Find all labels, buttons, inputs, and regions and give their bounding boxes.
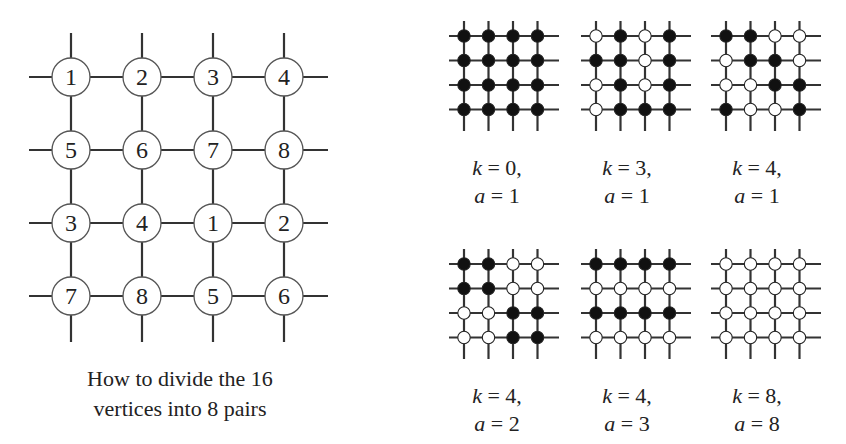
vertex-node: 7	[194, 131, 232, 169]
black-vertex	[614, 258, 626, 270]
a-value: a = 3	[567, 410, 687, 438]
small-grid-label: k = 4,a = 1	[697, 154, 817, 210]
caption-line-1: How to divide the 16	[20, 364, 340, 394]
black-vertex	[507, 79, 519, 91]
vertex-label: 3	[207, 64, 219, 90]
black-vertex	[614, 79, 626, 91]
white-vertex	[590, 30, 602, 42]
black-vertex	[663, 307, 675, 319]
vertex-label: 6	[278, 283, 290, 309]
black-vertex	[507, 103, 519, 115]
white-vertex	[614, 331, 626, 343]
black-vertex	[614, 54, 626, 66]
k-value: k = 4,	[567, 382, 687, 410]
k-value: k = 4,	[697, 154, 817, 182]
vertex-label: 4	[136, 210, 148, 236]
white-vertex	[744, 258, 756, 270]
white-vertex	[458, 331, 470, 343]
black-vertex	[531, 331, 543, 343]
black-vertex	[639, 258, 651, 270]
small-grid-k8-a8	[711, 249, 821, 359]
vertex-node: 6	[123, 131, 161, 169]
black-vertex	[507, 54, 519, 66]
white-vertex	[744, 103, 756, 115]
black-vertex	[482, 258, 494, 270]
black-vertex	[482, 79, 494, 91]
vertex-label: 4	[278, 64, 290, 90]
vertex-label: 5	[207, 283, 219, 309]
white-vertex	[744, 79, 756, 91]
white-vertex	[793, 30, 805, 42]
caption-line-2: vertices into 8 pairs	[20, 394, 340, 424]
white-vertex	[720, 307, 732, 319]
small-grid-k0-a1	[449, 21, 559, 131]
black-vertex	[744, 54, 756, 66]
white-vertex	[639, 30, 651, 42]
black-vertex	[793, 103, 805, 115]
vertex-node: 8	[123, 277, 161, 315]
vertex-node: 5	[52, 131, 90, 169]
vertex-node: 6	[265, 277, 303, 315]
white-vertex	[507, 258, 519, 270]
vertex-label: 2	[278, 210, 290, 236]
vertex-label: 6	[136, 137, 148, 163]
white-vertex	[507, 282, 519, 294]
white-vertex	[720, 331, 732, 343]
black-vertex	[614, 307, 626, 319]
black-vertex	[458, 30, 470, 42]
small-grid-label: k = 3,a = 1	[567, 154, 687, 210]
black-vertex	[720, 30, 732, 42]
black-vertex	[531, 307, 543, 319]
a-value: a = 1	[437, 182, 557, 210]
black-vertex	[663, 79, 675, 91]
black-vertex	[614, 30, 626, 42]
black-vertex	[482, 103, 494, 115]
white-vertex	[458, 307, 470, 319]
black-vertex	[590, 307, 602, 319]
vertex-node: 3	[194, 58, 232, 96]
small-grid-label: k = 8,a = 8	[697, 382, 817, 438]
vertex-label: 5	[65, 137, 77, 163]
white-vertex	[744, 307, 756, 319]
black-vertex	[458, 54, 470, 66]
white-vertex	[639, 282, 651, 294]
black-vertex	[639, 103, 651, 115]
white-vertex	[769, 282, 781, 294]
black-vertex	[663, 258, 675, 270]
vertex-node: 2	[265, 204, 303, 242]
white-vertex	[531, 282, 543, 294]
white-vertex	[614, 282, 626, 294]
white-vertex	[769, 331, 781, 343]
black-vertex	[458, 282, 470, 294]
black-vertex	[663, 30, 675, 42]
small-grid-k4-a3	[581, 249, 691, 359]
black-vertex	[793, 79, 805, 91]
white-vertex	[793, 54, 805, 66]
black-vertex	[614, 103, 626, 115]
black-vertex	[458, 103, 470, 115]
white-vertex	[639, 331, 651, 343]
a-value: a = 1	[567, 182, 687, 210]
small-grid-label: k = 0,a = 1	[437, 154, 557, 210]
black-vertex	[531, 30, 543, 42]
black-vertex	[482, 54, 494, 66]
white-vertex	[482, 331, 494, 343]
small-grid-label: k = 4,a = 3	[567, 382, 687, 438]
black-vertex	[507, 30, 519, 42]
white-vertex	[769, 30, 781, 42]
white-vertex	[639, 54, 651, 66]
small-grid-k3-a1	[581, 21, 691, 131]
vertex-label: 1	[65, 64, 77, 90]
a-value: a = 8	[697, 410, 817, 438]
white-vertex	[720, 54, 732, 66]
vertex-label: 2	[136, 64, 148, 90]
vertex-node: 2	[123, 58, 161, 96]
k-value: k = 8,	[697, 382, 817, 410]
white-vertex	[663, 282, 675, 294]
black-vertex	[590, 54, 602, 66]
small-grid-label: k = 4,a = 2	[437, 382, 557, 438]
vertex-node: 5	[194, 277, 232, 315]
black-vertex	[531, 54, 543, 66]
white-vertex	[744, 331, 756, 343]
white-vertex	[769, 258, 781, 270]
